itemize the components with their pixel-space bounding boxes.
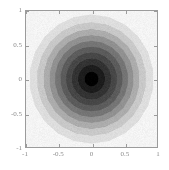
x-tick-label: 0.5 — [120, 151, 129, 158]
x-tick-label: -0.5 — [53, 151, 64, 158]
y-tick-label: 0 — [19, 76, 23, 83]
x-tick-mark — [93, 144, 94, 147]
contour-field — [26, 11, 157, 147]
x-tick-mark — [93, 11, 94, 14]
x-tick-label: 0 — [90, 151, 94, 158]
y-tick-label: 1 — [19, 7, 23, 14]
x-tick-mark — [126, 144, 127, 147]
plot-frame — [25, 10, 158, 148]
x-tick-mark — [59, 144, 60, 147]
contour-plot: -1-0.500.5110.50-0.5-1 — [0, 0, 169, 170]
x-tick-mark — [126, 11, 127, 14]
y-tick-label: -1 — [16, 145, 22, 152]
y-tick-label: 0.5 — [13, 41, 22, 48]
y-tick-mark — [154, 11, 157, 12]
x-tick-mark — [26, 144, 27, 147]
y-tick-mark — [26, 80, 29, 81]
y-tick-label: -0.5 — [11, 110, 22, 117]
x-tick-label: 1 — [156, 151, 160, 158]
y-tick-mark — [26, 11, 29, 12]
y-tick-mark — [26, 115, 29, 116]
y-tick-mark — [26, 46, 29, 47]
y-tick-mark — [154, 80, 157, 81]
y-tick-mark — [154, 46, 157, 47]
x-tick-mark — [59, 11, 60, 14]
y-tick-mark — [154, 115, 157, 116]
x-tick-label: -1 — [22, 151, 28, 158]
